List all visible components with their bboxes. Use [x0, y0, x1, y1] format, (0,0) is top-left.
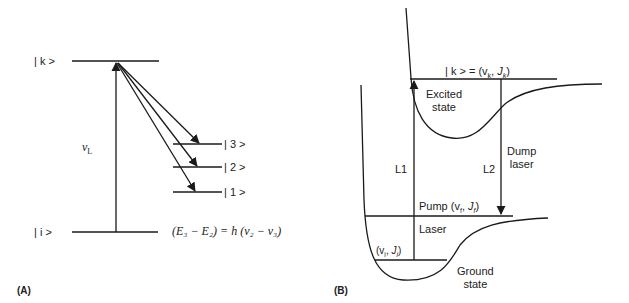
initial-ji-sub: i — [396, 251, 398, 258]
label-level-3-text: | 3 > — [224, 138, 246, 150]
upper-level-text: | k > = (v — [445, 65, 488, 77]
panel-b-label: (B) — [334, 285, 348, 296]
label-level-1-text: | 1 > — [224, 186, 246, 198]
excited-state-line1: Excited — [426, 88, 462, 101]
dump-laser-line1: Dump — [507, 145, 536, 158]
label-level-3: | 3 > — [224, 138, 246, 150]
label-level-2-text: | 2 > — [224, 161, 246, 173]
panel-a-graphics — [72, 61, 222, 232]
label-l2: L2 — [483, 163, 495, 175]
label-level-1: | 1 > — [224, 186, 246, 198]
upper-level-vk-sub: k — [488, 72, 492, 79]
label-laser: Laser — [419, 223, 447, 235]
initial-vi-sub: i — [384, 251, 386, 258]
dump-laser-line2: laser — [507, 158, 536, 171]
nu-subscript: L — [87, 147, 92, 156]
panel-b-graphics — [361, 8, 602, 280]
excited-state-line2: state — [426, 101, 462, 114]
panel-a-label: (A) — [17, 285, 31, 296]
label-initial-level: (vi, Ji) — [376, 245, 401, 261]
label-upper-level: | k > = (vk, Jk) — [445, 65, 510, 82]
label-level-i-text: | i > — [34, 226, 52, 238]
label-l1: L1 — [395, 163, 407, 175]
label-ground-state: Ground state — [457, 265, 494, 291]
label-level-2: | 2 > — [224, 161, 246, 173]
label-level-k-text: | k > — [34, 55, 55, 67]
pump-text: Pump (v — [419, 200, 460, 212]
emission-arrow-2 — [118, 63, 197, 166]
label-pump: Pump (vf, Jf) — [419, 200, 479, 217]
label-level-i: | i > — [34, 226, 52, 238]
pump-jf-sub: f — [474, 207, 476, 214]
label-nu-l: νL — [82, 141, 92, 158]
equation: (E₃ − E₂) = h (ν₂ − ν₃) — [172, 225, 281, 237]
label-level-k: | k > — [34, 55, 55, 67]
ground-state-line1: Ground — [457, 265, 494, 278]
label-dump-laser: Dump laser — [507, 145, 536, 171]
upper-level-jk-sub: k — [503, 72, 507, 79]
label-excited-state: Excited state — [426, 88, 462, 114]
pump-vf-sub: f — [460, 207, 462, 214]
ground-state-line2: state — [457, 278, 494, 291]
